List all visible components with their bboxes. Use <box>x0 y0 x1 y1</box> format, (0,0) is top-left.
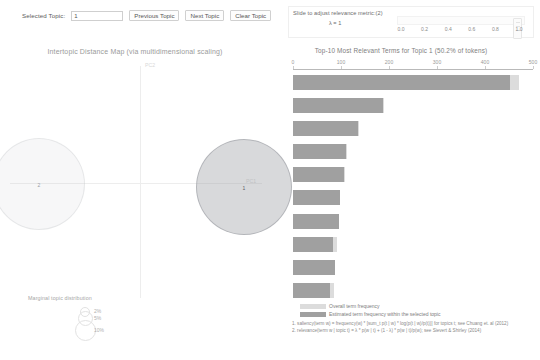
selected-topic-label: Selected Topic: <box>22 12 65 19</box>
legend-item-overall: Overall term frequency <box>300 303 538 309</box>
ldavis-app: Selected Topic: Previous Topic Next Topi… <box>0 0 540 360</box>
barchart-tick-label: 100 <box>337 59 345 65</box>
barchart-legend: Overall term frequency Estimated term fr… <box>300 303 538 319</box>
barchart-tick-label: 0 <box>292 59 295 65</box>
topic-control-toolbar: Selected Topic: Previous Topic Next Topi… <box>22 10 271 21</box>
barchart-tick-mark <box>485 66 486 69</box>
barchart-bar-group <box>293 237 533 252</box>
relevance-slider-track[interactable] <box>397 16 525 25</box>
marginal-topic-distribution-title: Marginal topic distribution <box>28 295 148 301</box>
barchart-footnotes: 1. saliency(term w) = frequency(w) * [su… <box>292 320 538 334</box>
barchart-row[interactable]: report <box>262 210 540 233</box>
pc2-axis-line <box>140 66 141 298</box>
barchart-bar-topic <box>293 144 346 159</box>
barchart-tick-label: 200 <box>385 59 393 65</box>
intertopic-map-title: Intertopic Distance Map (via multidimens… <box>0 48 270 55</box>
barchart-bar-topic <box>293 121 358 136</box>
marginal-legend-circle-icon <box>75 320 96 341</box>
barchart-bar-group <box>293 190 533 205</box>
legend-swatch-overall-icon <box>300 304 326 309</box>
barchart-bar-topic <box>293 167 344 182</box>
barchart-bar-topic <box>293 190 340 205</box>
previous-topic-button[interactable]: Previous Topic <box>129 10 179 21</box>
barchart-bar-topic <box>293 283 330 298</box>
barchart-bar-topic <box>293 237 333 252</box>
barchart-bar-topic <box>293 214 339 229</box>
footnote-saliency: 1. saliency(term w) = frequency(w) * [su… <box>292 320 538 327</box>
barchart-row[interactable]: women <box>262 187 540 210</box>
barchart-row[interactable]: brain <box>262 141 540 164</box>
barchart-tick-label: 500 <box>529 59 537 65</box>
barchart-row[interactable]: health <box>262 94 540 117</box>
footnote-relevance: 2. relevance(term w | topic t) = λ * p(w… <box>292 327 538 334</box>
barchart-row[interactable]: study <box>262 71 540 94</box>
topic-bubble-label: 2 <box>38 182 41 188</box>
marginal-topic-distribution-items: 2%5%10% <box>28 305 148 347</box>
barchart-bar-group <box>293 167 533 182</box>
barchart-bar-group <box>293 98 533 113</box>
barchart-row[interactable]: researcher <box>262 164 540 187</box>
topic-bubble-2[interactable]: 2 <box>0 138 85 230</box>
relevance-slider-ticks: 0.00.20.40.60.81.0 <box>393 26 529 35</box>
legend-swatch-topic-icon <box>300 312 326 317</box>
barchart-tick-label: 400 <box>481 59 489 65</box>
barchart-tick-mark <box>293 66 294 69</box>
barchart-bar-topic <box>293 98 383 113</box>
barchart-tick-mark <box>533 66 534 69</box>
legend-item-topic: Estimated term frequency within the sele… <box>300 311 538 317</box>
barchart-bar-topic <box>293 260 335 275</box>
next-topic-button[interactable]: Next Topic <box>185 10 224 21</box>
slider-tick-label: 0.8 <box>492 26 499 32</box>
barchart-bar-group <box>293 121 533 136</box>
barchart-tick-mark <box>389 66 390 69</box>
barchart-title: Top-10 Most Relevant Terms for Topic 1 (… <box>262 47 540 54</box>
barchart-rows: studyhealthpeoplebrainresearcherwomenrep… <box>262 71 540 303</box>
barchart-tick-mark <box>437 66 438 69</box>
selected-topic-input[interactable] <box>71 11 123 21</box>
barchart-row[interactable]: people <box>262 117 540 140</box>
relevance-slider-label: Slide to adjust relevance metric:(2) <box>293 10 383 16</box>
slider-tick-label: 1.0 <box>516 26 523 32</box>
marginal-topic-distribution-legend: Marginal topic distribution 2%5%10% <box>28 295 148 347</box>
barchart-bar-group <box>293 144 533 159</box>
barchart-bar-group <box>293 214 533 229</box>
barchart-bar-group <box>293 283 533 298</box>
clear-topic-button[interactable]: Clear Topic <box>230 10 271 21</box>
barchart-x-axis <box>293 69 533 70</box>
barchart-bar-topic <box>293 75 510 90</box>
barchart-bar-group <box>293 75 533 90</box>
barchart-row[interactable]: scientist <box>262 257 540 280</box>
barchart-row[interactable]: team <box>262 280 540 303</box>
slider-tick-label: 0.2 <box>421 26 428 32</box>
legend-label-topic: Estimated term frequency within the sele… <box>329 311 440 317</box>
top-terms-barchart: 0100200300400500 studyhealthpeoplebrainr… <box>262 57 540 307</box>
legend-label-overall: Overall term frequency <box>329 303 380 309</box>
relevance-slider-panel: Slide to adjust relevance metric:(2) λ =… <box>288 6 534 38</box>
marginal-legend-item: 10% <box>28 320 148 341</box>
marginal-legend-value: 10% <box>94 327 104 333</box>
lambda-value-label: λ = 1 <box>329 20 341 26</box>
pc2-axis-label: PC2 <box>145 62 155 68</box>
barchart-tick-mark <box>341 66 342 69</box>
slider-tick-label: 0.6 <box>468 26 475 32</box>
intertopic-distance-map[interactable]: PC1 PC2 12 <box>0 58 270 308</box>
barchart-row[interactable]: obesity <box>262 233 540 256</box>
barchart-tick-label: 300 <box>433 59 441 65</box>
topic-bubble-label: 1 <box>243 185 246 191</box>
barchart-bar-group <box>293 260 533 275</box>
slider-tick-label: 0.4 <box>445 26 452 32</box>
slider-tick-label: 0.0 <box>398 26 405 32</box>
